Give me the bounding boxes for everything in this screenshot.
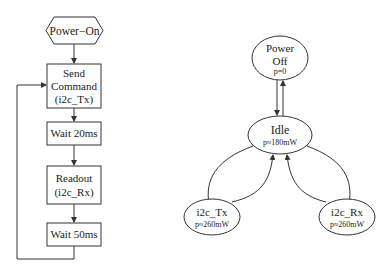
svg-text:p≈260mW: p≈260mW — [195, 220, 230, 229]
flowchart: Power−On Send Command (i2c_Tx) Wait 20ms… — [17, 17, 103, 259]
svg-text:(i2c_Rx): (i2c_Rx) — [54, 186, 93, 199]
step-wait-50ms: Wait 50ms — [47, 223, 101, 246]
svg-text:Power: Power — [266, 42, 294, 54]
svg-text:i2c_Tx: i2c_Tx — [196, 206, 228, 218]
svg-text:Idle: Idle — [271, 123, 290, 137]
state-diagram: Power Off p=0 Idle p≈180mW i2c_Tx p≈260m… — [184, 36, 375, 235]
state-idle: Idle p≈180mW — [248, 116, 312, 154]
step-readout: Readout (i2c_Rx) — [47, 166, 101, 204]
svg-text:p≈180mW: p≈180mW — [263, 138, 298, 147]
svg-text:Off: Off — [272, 55, 287, 67]
svg-text:p≈260mW: p≈260mW — [330, 220, 365, 229]
svg-text:Send: Send — [63, 67, 86, 79]
step-wait-20ms: Wait 20ms — [47, 122, 101, 145]
svg-text:Readout: Readout — [56, 172, 93, 184]
start-label: Power−On — [50, 25, 100, 37]
state-i2c-rx: i2c_Rx p≈260mW — [319, 199, 375, 235]
svg-text:Wait 50ms: Wait 50ms — [50, 228, 97, 240]
svg-text:p=0: p=0 — [274, 67, 287, 76]
svg-text:Wait 20ms: Wait 20ms — [50, 127, 97, 139]
svg-text:(i2c_Tx): (i2c_Tx) — [55, 93, 94, 106]
state-power-off: Power Off p=0 — [252, 36, 308, 80]
start-node-power-on: Power−On — [46, 17, 103, 44]
svg-text:Command: Command — [51, 80, 97, 92]
diagram-canvas: Power−On Send Command (i2c_Tx) Wait 20ms… — [0, 0, 387, 271]
svg-text:i2c_Rx: i2c_Rx — [331, 206, 363, 218]
state-i2c-tx: i2c_Tx p≈260mW — [184, 199, 240, 235]
step-send-command: Send Command (i2c_Tx) — [47, 64, 101, 108]
